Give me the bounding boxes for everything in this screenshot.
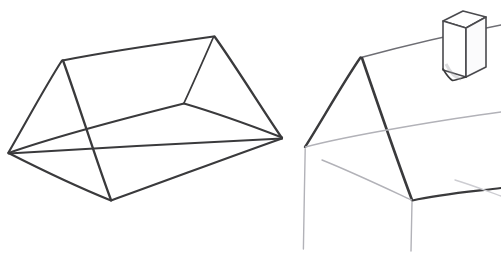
sketch-svg <box>0 0 501 261</box>
chimney-right-face <box>466 17 486 77</box>
chimney-box <box>443 11 486 81</box>
paper-background <box>0 0 501 261</box>
chimney-front-face <box>443 21 466 77</box>
drawing-canvas <box>0 0 501 261</box>
